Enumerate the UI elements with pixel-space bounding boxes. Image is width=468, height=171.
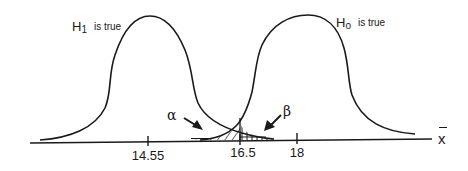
h1-label-rest: is true [94,21,121,32]
beta-symbol: β [283,104,291,118]
alpha-symbol: α [167,108,176,122]
h1-label-main: H [72,19,81,34]
tick-label-16-5: 16.5 [230,146,255,159]
h0-curve [200,15,415,140]
x-axis-label: x [438,131,446,146]
alpha-arrow [184,118,203,130]
h1-label-sub: 1 [81,24,87,35]
beta-arrow [264,115,281,131]
h0-label-sub: o [345,20,351,31]
h0-label-main: H [336,15,345,30]
h0-label: Hois true [336,16,385,29]
tick-label-18: 18 [290,146,304,159]
x-axis-label-text: x [438,130,446,147]
x-bar-overline [439,127,447,128]
tick-label-14-55: 14.55 [132,149,165,162]
h1-label: H1is true [72,20,121,33]
h0-label-rest: is true [358,17,385,28]
